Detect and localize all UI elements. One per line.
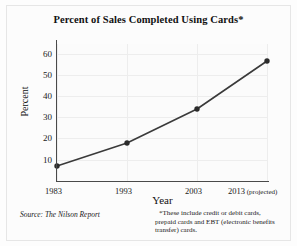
x-axis-line: [56, 181, 269, 182]
data-point-2013: [264, 58, 269, 63]
series-polyline: [57, 61, 267, 166]
y-tick-label-20: 20: [30, 134, 52, 143]
y-axis-line: [56, 40, 57, 182]
data-point-1993: [124, 140, 129, 145]
y-axis-title: Percent: [19, 72, 30, 132]
x-axis-title: Year: [57, 194, 268, 206]
plot-area: [57, 44, 268, 181]
y-tick-label-40: 40: [30, 92, 52, 101]
footnote-text: *These include credit or debit cards, pr…: [155, 209, 275, 234]
data-point-2003: [194, 106, 199, 111]
y-tick-label-50: 50: [30, 71, 52, 80]
chart-title: Percent of Sales Completed Using Cards*: [0, 14, 297, 25]
data-series-line: [57, 44, 268, 181]
y-tick-label-10: 10: [30, 156, 52, 165]
y-tick-label-60: 60: [30, 50, 52, 59]
y-tick-label-30: 30: [30, 113, 52, 122]
source-note: Source: The Nilson Report: [20, 210, 100, 219]
figure-container: Percent of Sales Completed Using Cards* …: [0, 0, 297, 246]
footnote: *These include credit or debit cards, pr…: [155, 209, 283, 235]
